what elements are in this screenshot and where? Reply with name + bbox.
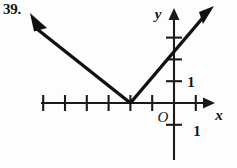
curve-left-arrow-icon xyxy=(30,13,47,32)
y-axis-group xyxy=(166,8,182,160)
origin-label: O xyxy=(158,109,169,125)
y-axis-label: y xyxy=(153,6,162,22)
figure-root: 39. xyxy=(0,0,237,168)
y-tick-label-one: 1 xyxy=(187,74,195,90)
graph-canvas: y x O 1 1 xyxy=(0,0,237,168)
x-axis-label: x xyxy=(214,107,223,123)
curve-left-branch xyxy=(37,29,130,103)
y-axis-arrow-icon xyxy=(169,8,180,20)
x-axis-arrow-icon xyxy=(203,98,215,109)
x-tick-label-one: 1 xyxy=(193,123,201,139)
